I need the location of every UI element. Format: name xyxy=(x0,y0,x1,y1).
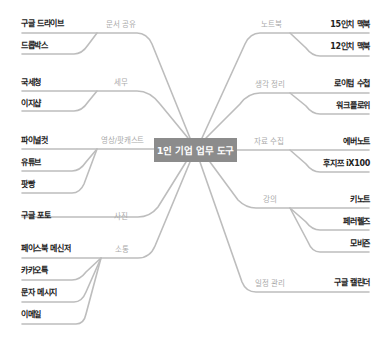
leaf-kakaotalk[interactable]: 카카오톡 xyxy=(21,265,48,277)
category-communication[interactable]: 소통 xyxy=(115,244,129,256)
leaf-parallels[interactable]: 페러렐즈 xyxy=(343,216,370,228)
category-thinking[interactable]: 생각 정리 xyxy=(255,79,284,91)
leaf-evernote[interactable]: 에버노트 xyxy=(343,136,370,148)
category-collect[interactable]: 자료 수집 xyxy=(254,136,283,148)
leaf-google-drive[interactable]: 구글 드라이브 xyxy=(21,18,64,30)
category-schedule[interactable]: 일정 관리 xyxy=(255,278,284,290)
leaf-easyshop[interactable]: 이지샵 xyxy=(21,98,41,110)
branch-line-tax xyxy=(22,91,188,138)
category-photo[interactable]: 사진 xyxy=(114,211,128,223)
category-lecture[interactable]: 강의 xyxy=(263,194,277,206)
leaf-macbook-12[interactable]: 12인치 맥북 xyxy=(330,41,370,53)
leaf-podbbang[interactable]: 팟빵 xyxy=(21,179,34,191)
leaf-dropbox[interactable]: 드롭박스 xyxy=(21,40,48,52)
central-topic-label: 1인 기업 업무 도구 xyxy=(157,143,234,157)
category-doc-share[interactable]: 문서 공유 xyxy=(106,19,135,31)
leaf-mobizen[interactable]: 모비즌 xyxy=(350,238,370,250)
leaf-keynote[interactable]: 키노트 xyxy=(350,194,370,206)
leaf-text-message[interactable]: 문자 메시지 xyxy=(21,287,57,299)
leaf-email[interactable]: 이메일 xyxy=(21,309,41,321)
category-notebook[interactable]: 노트북 xyxy=(261,19,281,31)
leaf-facebook-messenger[interactable]: 페이스북 메신저 xyxy=(21,243,70,255)
leaf-final-cut[interactable]: 파이널컷 xyxy=(21,135,48,147)
leaf-nts[interactable]: 국세청 xyxy=(21,77,41,89)
central-topic[interactable]: 1인 기업 업무 도구 xyxy=(154,138,237,162)
leaf-google-calendar[interactable]: 구글 캘린더 xyxy=(334,277,370,289)
category-video-podcast[interactable]: 영상/팟캐스트 xyxy=(101,135,144,147)
leaf-macbook-15[interactable]: 15인치 맥북 xyxy=(330,19,370,31)
leaf-fujitsu-ix100[interactable]: 후지쯔 iX100 xyxy=(323,158,370,170)
leaf-leuchtturm[interactable]: 로이텀 수첩 xyxy=(334,78,370,90)
category-tax[interactable]: 세무 xyxy=(114,77,128,89)
leaf-google-photos[interactable]: 구글 포토 xyxy=(21,210,50,222)
leaf-youtube[interactable]: 유튜브 xyxy=(21,157,41,169)
leaf-workflowy[interactable]: 워크플로위 xyxy=(336,100,370,112)
